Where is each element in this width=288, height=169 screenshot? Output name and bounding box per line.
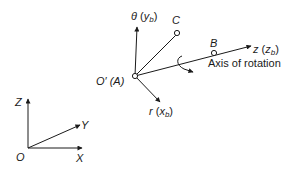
z-axis-label: z (zb): [252, 43, 279, 57]
global-frame: Z Y X O: [14, 96, 89, 164]
theta-axis-label: θ (yb): [131, 10, 157, 24]
global-y-label: Y: [81, 119, 89, 131]
r-axis-label: r (xb): [149, 105, 173, 119]
origin-a-marker: [132, 73, 137, 78]
point-b-marker: [211, 50, 216, 55]
body-frame: θ (yb) C B z (zb) Axis of rotation r (xb…: [96, 10, 281, 119]
rotation-axis-label: Axis of rotation: [208, 57, 281, 69]
global-x-label: X: [75, 152, 84, 164]
global-z-label: Z: [14, 96, 23, 108]
coordinate-diagram: Z Y X O θ (yb) C B z (zb) Axis of rotati…: [0, 0, 288, 169]
link-to-c: [135, 35, 176, 76]
r-axis: [135, 76, 160, 102]
global-origin-label: O: [16, 151, 25, 163]
origin-a-label: O′ (A): [96, 75, 125, 87]
global-y-axis: [28, 125, 80, 148]
point-c-label: C: [172, 14, 180, 26]
point-b-label: B: [210, 37, 217, 49]
theta-axis: [135, 27, 137, 76]
point-c-marker: [174, 30, 179, 35]
